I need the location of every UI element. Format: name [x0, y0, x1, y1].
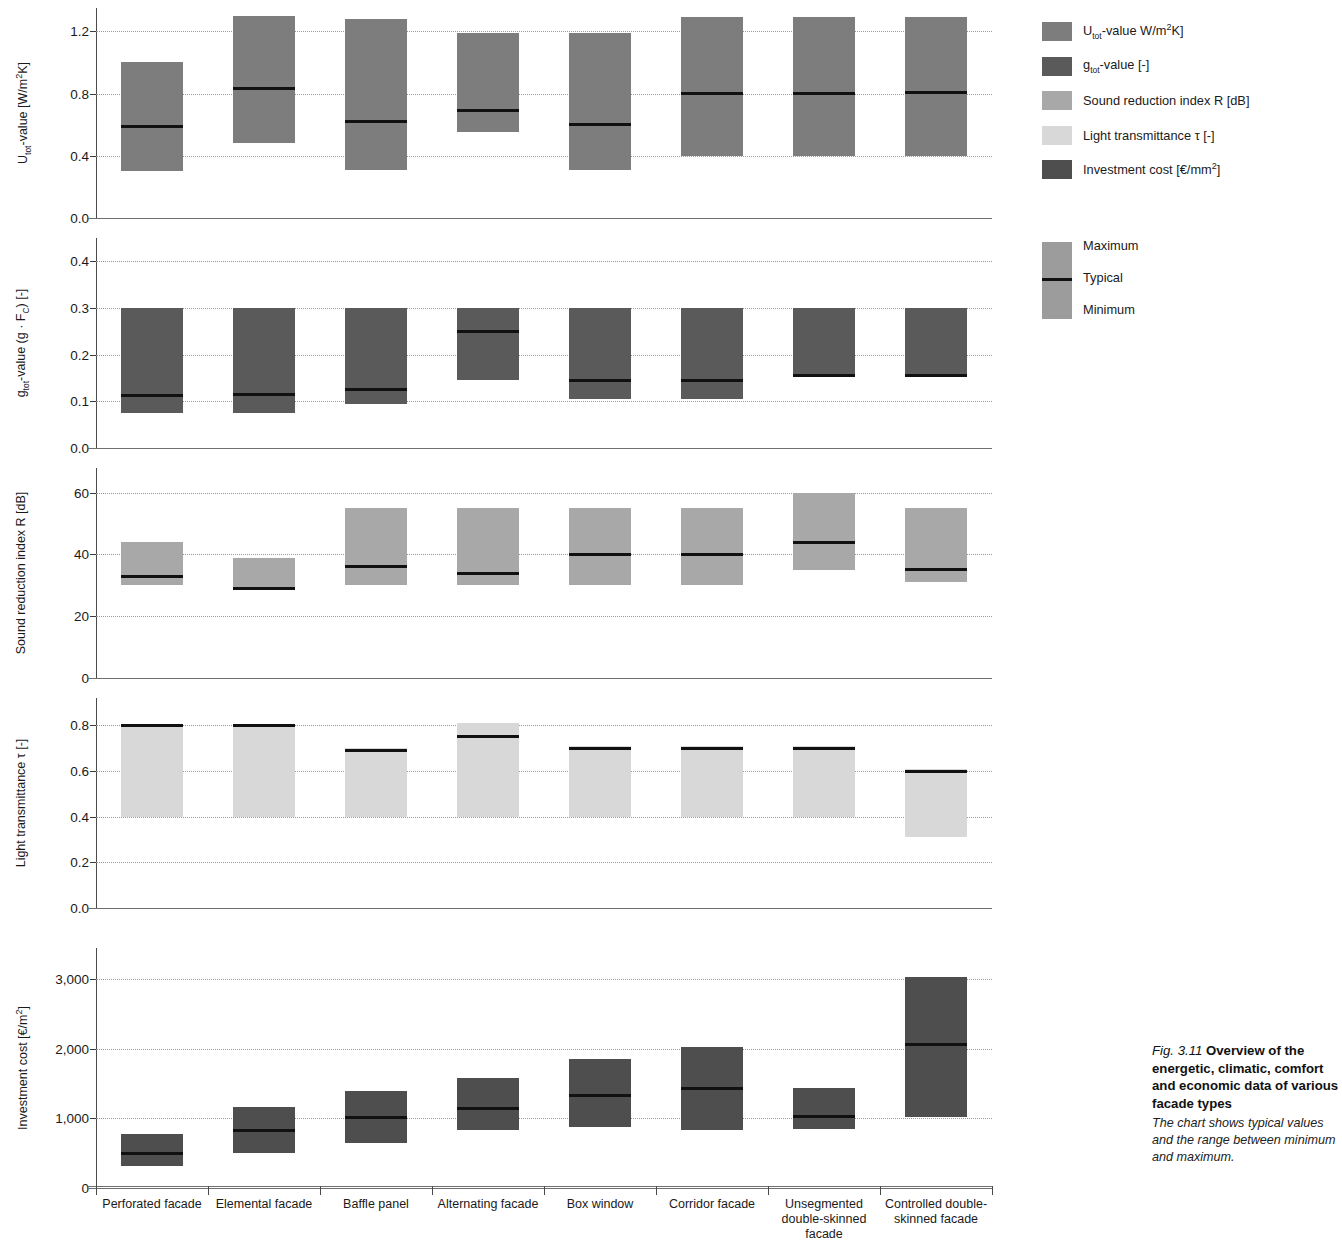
- typical-value-marker: [905, 770, 967, 773]
- y-axis-line-light_transmittance: [96, 698, 97, 908]
- y-tick-label: 60: [74, 485, 89, 500]
- range-bar: [681, 308, 743, 399]
- range-bar: [345, 748, 407, 816]
- typical-value-marker: [681, 1087, 743, 1090]
- y-axis-line-sound_reduction: [96, 468, 97, 678]
- category-tick: [320, 1186, 321, 1195]
- y-tick-label: 0.0: [70, 441, 89, 456]
- x-axis-line-g_tot: [88, 448, 992, 449]
- y-axis-line-u_tot: [96, 8, 97, 218]
- y-tick-label: 40: [74, 547, 89, 562]
- typical-value-marker: [457, 572, 519, 575]
- gridline: [96, 31, 992, 32]
- category-label: Corridor facade: [656, 1197, 768, 1212]
- typical-value-marker: [121, 575, 183, 578]
- legend-item-u-tot-value: Utot-value W/m2K]: [1042, 22, 1266, 41]
- range-bar: [569, 33, 631, 170]
- panel-g_tot: gtot-value (g · FC) [-]0.00.10.20.30.4: [0, 238, 1010, 448]
- category-label: Baffle panel: [320, 1197, 432, 1212]
- range-bar: [457, 308, 519, 380]
- range-bar: [121, 725, 183, 816]
- range-bar: [121, 308, 183, 413]
- range-legend-maximum-label: Maximum: [1083, 238, 1138, 253]
- range-bar: [233, 725, 295, 816]
- legend-label-u-tot-value: Utot-value W/m2K]: [1083, 22, 1184, 41]
- category-tick: [880, 1186, 881, 1195]
- typical-value-marker: [793, 541, 855, 544]
- category-tick: [656, 1186, 657, 1195]
- range-bar: [345, 19, 407, 170]
- range-legend-minimum-label: Minimum: [1083, 302, 1135, 317]
- typical-value-marker: [681, 553, 743, 556]
- legend-swatch-investment-cost: [1042, 160, 1072, 179]
- range-legend-typical-label: Typical: [1083, 270, 1123, 285]
- typical-value-marker: [793, 374, 855, 377]
- category-label: Controlled double-skinned facade: [880, 1197, 992, 1227]
- range-bar: [457, 33, 519, 133]
- typical-value-marker: [793, 747, 855, 750]
- typical-value-marker: [457, 735, 519, 738]
- y-tick-label: 0.4: [70, 254, 89, 269]
- legend-item-light-transmittance: Light transmittance τ [-]: [1042, 126, 1266, 145]
- gridline: [96, 725, 992, 726]
- range-bar: [793, 17, 855, 155]
- typical-value-marker: [681, 747, 743, 750]
- y-tick-label: 0.0: [70, 211, 89, 226]
- y-tick-mark: [90, 355, 96, 356]
- range-bar: [569, 508, 631, 585]
- range-legend-typical-line: [1042, 278, 1072, 281]
- gridline: [96, 979, 992, 980]
- range-bar: [793, 493, 855, 570]
- x-axis-line-sound_reduction: [88, 678, 992, 679]
- typical-value-marker: [457, 1107, 519, 1110]
- y-axis-line-g_tot: [96, 238, 97, 448]
- typical-value-marker: [457, 330, 519, 333]
- y-axis-label-investment_cost: Investment cost [€/m2]: [14, 948, 30, 1188]
- y-tick-mark: [90, 1118, 96, 1119]
- typical-value-marker: [233, 587, 295, 590]
- range-bar: [905, 977, 967, 1117]
- category-axis: Perforated facadeElemental facadeBaffle …: [96, 1186, 992, 1246]
- category-tick: [544, 1186, 545, 1195]
- y-tick-label: 3,000: [55, 972, 89, 987]
- legend-label-g-tot-value: gtot-value [-]: [1083, 57, 1149, 75]
- typical-value-marker: [793, 92, 855, 95]
- typical-value-marker: [569, 123, 631, 126]
- y-tick-mark: [90, 261, 96, 262]
- plot-area-u_tot: 0.00.40.81.2: [96, 8, 992, 218]
- typical-value-marker: [569, 1094, 631, 1097]
- series-legend: Utot-value W/m2K]gtot-value [-]Sound red…: [1042, 22, 1266, 195]
- y-tick-mark: [90, 401, 96, 402]
- category-tick: [768, 1186, 769, 1195]
- range-bar: [793, 746, 855, 817]
- range-bar: [905, 17, 967, 155]
- typical-value-marker: [345, 388, 407, 391]
- range-bar: [569, 746, 631, 817]
- range-bar: [457, 1078, 519, 1130]
- typical-value-marker: [121, 125, 183, 128]
- y-tick-label: 0.1: [70, 394, 89, 409]
- figure-caption: Fig. 3.11 Overview of the energetic, cli…: [1152, 1042, 1342, 1166]
- category-label: Alternating facade: [432, 1197, 544, 1212]
- range-bar: [905, 769, 967, 837]
- gridline: [96, 355, 992, 356]
- legend-label-sound-reduction-index: Sound reduction index R [dB]: [1083, 93, 1249, 108]
- y-axis-label-u_tot: Utot-value [W/m2K]: [14, 8, 33, 218]
- gridline: [96, 308, 992, 309]
- gridline: [96, 261, 992, 262]
- typical-value-marker: [345, 1116, 407, 1119]
- category-label: Elemental facade: [208, 1197, 320, 1212]
- x-axis-line-u_tot: [88, 218, 992, 219]
- typical-value-marker: [457, 109, 519, 112]
- y-axis-label-g_tot: gtot-value (g · FC) [-]: [14, 238, 31, 448]
- category-tick: [432, 1186, 433, 1195]
- gridline: [96, 493, 992, 494]
- y-tick-label: 0.4: [70, 148, 89, 163]
- legend-item-g-tot-value: gtot-value [-]: [1042, 57, 1266, 76]
- panel-u_tot: Utot-value [W/m2K]0.00.40.81.2: [0, 8, 1010, 218]
- typical-value-marker: [121, 724, 183, 727]
- range-legend: Maximum Typical Minimum: [1042, 238, 1266, 338]
- typical-value-marker: [793, 1115, 855, 1118]
- range-bar: [905, 308, 967, 376]
